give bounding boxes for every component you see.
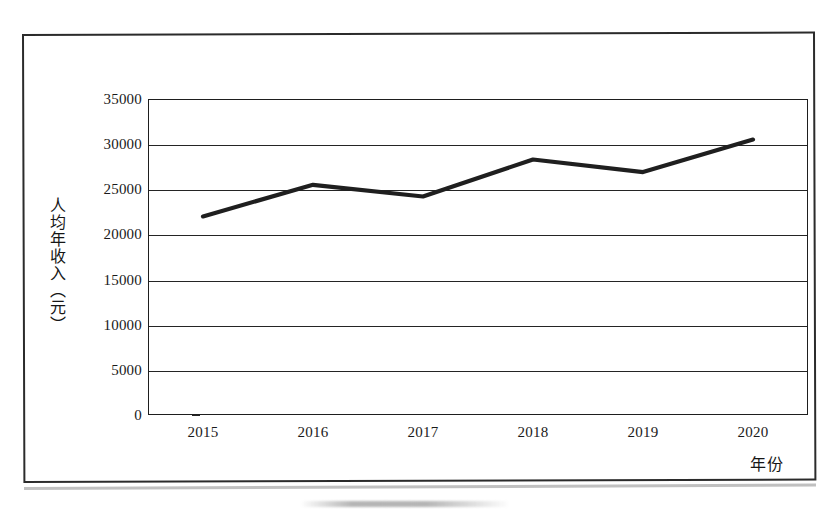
- x-tick-label-2020: 2020: [698, 424, 808, 441]
- line-chart: 人均年收入（元） 0500010000150002000025000300003…: [0, 0, 839, 515]
- x-tick-label-2018: 2018: [478, 424, 588, 441]
- x-axis-title: 年份: [750, 451, 784, 475]
- y-axis-tick-labels: 05000100001500020000250003000035000: [52, 99, 142, 415]
- y-tick-label-25000: 25000: [56, 182, 142, 197]
- x-tick-label-2017: 2017: [368, 424, 478, 441]
- y-tick-label-35000: 35000: [56, 92, 142, 107]
- y-tick-label-15000: 15000: [56, 272, 142, 287]
- x-tick-label-2016: 2016: [258, 424, 368, 441]
- x-tick-label-2019: 2019: [588, 424, 698, 441]
- y-tick-mark-0: [192, 415, 200, 416]
- y-tick-label-10000: 10000: [56, 317, 142, 332]
- chart-page: 人均年收入（元） 0500010000150002000025000300003…: [0, 0, 839, 515]
- y-tick-label-20000: 20000: [56, 227, 142, 242]
- y-tick-label-0: 0: [56, 408, 142, 423]
- y-tick-label-30000: 30000: [56, 137, 142, 152]
- x-tick-label-2015: 2015: [148, 424, 258, 441]
- series-line-layer: [148, 99, 808, 415]
- series-line-income: [203, 140, 753, 217]
- y-tick-label-5000: 5000: [56, 362, 142, 377]
